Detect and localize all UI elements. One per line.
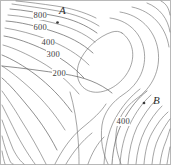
contour-plot-canvas [0,0,171,165]
contour-label-600: 600 [33,23,47,32]
contour-line-group-lower-middle [55,104,106,164]
contour-map-figure: 800 600 400 300 200 400 A B [0,0,171,165]
point-a-marker [56,21,59,24]
contour-label-300: 300 [46,50,60,59]
contour-label-200: 200 [52,69,66,78]
contour-line-group-right-wrap [101,1,170,164]
contour-label-800: 800 [33,11,47,20]
point-a-label: A [59,5,66,16]
contour-label-400-right: 400 [116,117,130,126]
point-b-marker [143,102,146,105]
figure-border [1,1,171,165]
point-b-label: B [153,95,160,106]
contour-line-group-right-peak [104,89,170,164]
contour-label-400-left: 400 [41,38,55,47]
